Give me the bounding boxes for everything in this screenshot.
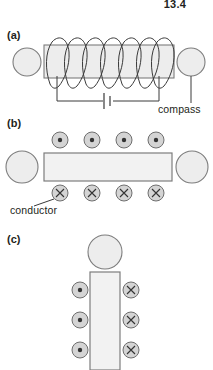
compass-right-b	[176, 151, 208, 183]
field-dot-symbol	[84, 132, 100, 148]
field-dots-top	[52, 132, 164, 148]
panel-a: (a)	[7, 29, 205, 115]
field-dot-symbol	[52, 132, 68, 148]
field-cross-symbol	[148, 185, 164, 201]
running-head: 13.4	[164, 0, 187, 10]
compass-left-b	[6, 151, 38, 183]
compass-left-a	[13, 48, 41, 76]
field-cross-symbol	[52, 185, 68, 201]
field-cross-symbol	[123, 312, 139, 328]
circuit-wire-right	[113, 76, 159, 101]
field-dots-left	[72, 282, 88, 358]
field-cross-symbol	[123, 342, 139, 358]
conductor-bar-horizontal	[44, 153, 172, 181]
solenoid-core-bar	[44, 45, 174, 78]
conductor-bar-vertical	[90, 272, 120, 370]
field-dot-symbol	[116, 132, 132, 148]
panel-b-label: (b)	[7, 117, 21, 129]
compass-callout-label: compass	[158, 103, 201, 115]
field-dot-symbol	[72, 312, 88, 328]
battery-symbol	[104, 93, 110, 109]
figure-canvas: 13.4 (a)	[0, 0, 213, 370]
field-crosses-right	[123, 282, 139, 358]
compass-top-c	[88, 235, 122, 269]
field-cross-symbol	[84, 185, 100, 201]
panel-c-label: (c)	[7, 233, 21, 245]
circuit-wire-left	[57, 76, 103, 101]
conductor-callout-label: conductor	[10, 204, 57, 216]
field-dot-symbol	[72, 282, 88, 298]
field-cross-symbol	[116, 185, 132, 201]
compass-right-a	[177, 48, 205, 76]
field-cross-symbol	[123, 282, 139, 298]
panel-c: (c)	[7, 233, 139, 370]
field-dot-symbol	[72, 342, 88, 358]
panel-b: (b)	[6, 117, 208, 216]
field-dot-symbol	[148, 132, 164, 148]
field-crosses-bottom	[52, 185, 164, 201]
physics-figure: 13.4 (a)	[0, 0, 213, 370]
panel-a-label: (a)	[7, 29, 21, 41]
